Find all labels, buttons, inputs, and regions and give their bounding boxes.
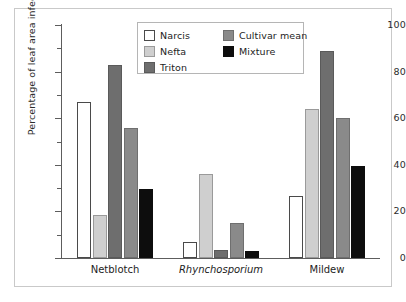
y-tick-major-20 [55,211,61,212]
legend-label-narcis: Narcis [160,30,190,41]
bar-netblotch-mixture [139,189,153,258]
bar-netblotch-cultivar-mean [124,128,138,258]
x-axis-line [61,258,380,259]
y-tick-major-40 [55,165,61,166]
legend-entry-nefta[interactable]: Nefta [144,44,190,59]
legend-swatch-mixture-icon [223,46,234,57]
bar-netblotch-narcis [77,102,91,258]
y-tick-minor-30 [57,188,61,189]
bar-mildew-narcis [289,196,303,258]
legend-label-nefta: Nefta [160,46,186,57]
legend-label-triton: Triton [160,62,187,73]
y-tick-minor-50 [57,142,61,143]
legend-entry-mixture[interactable]: Mixture [223,44,307,59]
legend-entry-cultivar-mean[interactable]: Cultivar mean [223,28,307,43]
legend-entry-triton[interactable]: Triton [144,60,190,75]
y-tick-minor-70 [57,95,61,96]
legend-column-1: NarcisNeftaTriton [144,28,190,76]
legend-swatch-triton-icon [144,62,155,73]
bar-netblotch-triton [108,65,122,258]
bar-rhynchosporium-nefta [199,174,213,258]
y-tick-major-60 [55,118,61,119]
y-tick-minor-90 [57,48,61,49]
bar-rhynchosporium-mixture [245,251,259,258]
bar-mildew-nefta [305,109,319,258]
bar-rhynchosporium-triton [214,250,228,258]
x-tick-label-mildew: Mildew [274,264,380,275]
bar-rhynchosporium-narcis [183,242,197,258]
legend-column-2: Cultivar meanMixture [223,28,307,60]
legend-entry-narcis[interactable]: Narcis [144,28,190,43]
chart-figure: Percentage of leaf area infected 0204060… [0,0,406,302]
y-tick-minor-10 [57,235,61,236]
chart-legend: NarcisNeftaTriton Cultivar meanMixture [137,22,304,74]
legend-label-mixture: Mixture [239,46,275,57]
bar-rhynchosporium-cultivar-mean [230,223,244,258]
bar-netblotch-nefta [93,215,107,258]
y-tick-major-100 [55,25,61,26]
y-tick-major-0 [55,258,61,259]
y-axis-title: Percentage of leaf area infected [26,0,37,153]
bar-mildew-mixture [351,166,365,258]
bar-mildew-cultivar-mean [336,118,350,258]
legend-swatch-cultivar-mean-icon [223,30,234,41]
x-tick-label-netblotch: Netblotch [62,264,168,275]
legend-swatch-narcis-icon [144,30,155,41]
x-tick-label-rhynchosporium: Rhynchosporium [168,264,274,275]
legend-swatch-nefta-icon [144,46,155,57]
bar-mildew-triton [320,51,334,258]
legend-label-cultivar-mean: Cultivar mean [239,30,307,41]
y-tick-major-80 [55,72,61,73]
